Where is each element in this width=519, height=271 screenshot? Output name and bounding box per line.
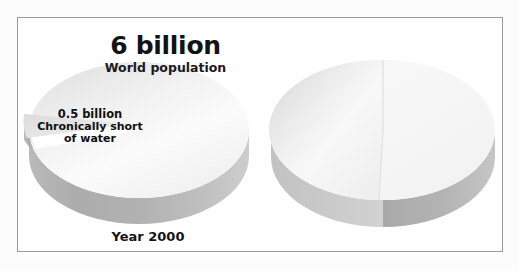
pie-2000-axis-label: Year 2000 bbox=[68, 230, 228, 245]
pie-2000-callout-line3: of water bbox=[26, 133, 154, 145]
pie-panel-year-2000: 6 billion World population 0.5 billion C… bbox=[18, 18, 261, 253]
pie-chart-2050 bbox=[261, 18, 504, 253]
pie-2000-callout-value: 0.5 billion bbox=[26, 108, 154, 121]
chart-frame: 6 billion World population 0.5 billion C… bbox=[17, 17, 503, 252]
pie-2000-subhead: World population bbox=[63, 61, 268, 75]
pie-panel-year-2050: 8.9 billion World population 4 billion C… bbox=[261, 18, 504, 253]
chart-inner: 6 billion World population 0.5 billion C… bbox=[18, 18, 502, 251]
pie-2000-headline: 6 billion bbox=[63, 32, 268, 60]
pie-2000-callout: 0.5 billion Chronically short of water bbox=[26, 108, 154, 146]
figure-canvas: 6 billion World population 0.5 billion C… bbox=[0, 0, 519, 271]
